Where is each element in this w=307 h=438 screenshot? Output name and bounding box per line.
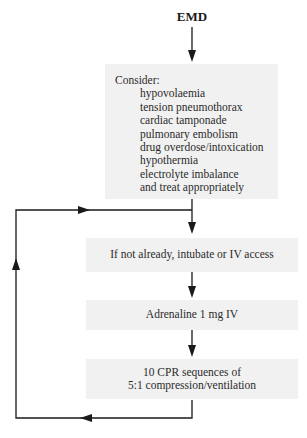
consider-item: pulmonary embolism (140, 128, 270, 141)
consider-item: cardiac tamponade (140, 114, 270, 127)
consider-item: electrolyte imbalance (140, 168, 270, 181)
step-cpr-label-line2: 5:1 compression/ventilation (128, 379, 256, 392)
consider-item: and treat appropriately (140, 181, 270, 194)
step-adrenaline-box: Adrenaline 1 mg IV (86, 300, 298, 330)
step-cpr-label-line1: 10 CPR sequences of (128, 366, 256, 379)
step-intubate-label: If not already, intubate or IV access (110, 248, 274, 261)
consider-list: hypovolaemia tension pneumothorax cardia… (115, 87, 270, 194)
diagram-title: EMD (162, 9, 222, 25)
arrow-emd-to-consider (188, 27, 196, 62)
consider-item: hypovolaemia (140, 87, 270, 100)
consider-box: Consider: hypovolaemia tension pneumotho… (105, 64, 278, 199)
arrow-intubate-to-adrenaline (188, 272, 196, 298)
consider-item: hypothermia (140, 154, 270, 167)
consider-item: drug overdose/intoxication (140, 141, 270, 154)
arrow-adrenaline-to-cpr (188, 330, 196, 357)
step-intubate-box: If not already, intubate or IV access (86, 238, 298, 272)
step-adrenaline-label: Adrenaline 1 mg IV (146, 308, 238, 321)
arrow-consider-to-intubate (188, 199, 196, 234)
consider-heading: Consider: (115, 74, 270, 87)
step-cpr-box: 10 CPR sequences of 5:1 compression/vent… (86, 359, 298, 399)
consider-item: tension pneumothorax (140, 101, 270, 114)
